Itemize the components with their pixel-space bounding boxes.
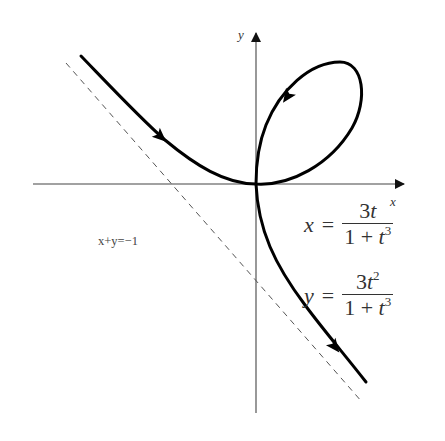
exp: 3 — [385, 294, 392, 309]
exp: 2 — [373, 268, 380, 283]
equation-y: y = 3t2 1 + t3 — [304, 270, 393, 321]
equation-x-denominator: 1 + t3 — [342, 223, 393, 250]
equation-x: x = 3t 1 + t3 — [304, 199, 393, 250]
const: 1 + — [344, 224, 378, 249]
curve-loop — [256, 62, 362, 184]
coef: 3 — [356, 269, 367, 294]
asymptote-label: x+y=−1 — [98, 234, 138, 249]
const: 1 + — [344, 295, 378, 320]
equation-x-equals: = — [322, 212, 334, 238]
equation-y-denominator: 1 + t3 — [342, 294, 393, 321]
curve-branch-upper-left — [81, 56, 256, 184]
equation-x-numerator: 3t — [355, 199, 380, 223]
equation-x-lhs: x — [304, 212, 314, 238]
var: t — [370, 198, 376, 223]
equation-y-numerator: 3t2 — [352, 270, 384, 294]
equation-y-lhs: y — [304, 283, 314, 309]
coef: 3 — [359, 198, 370, 223]
y-axis-label: y — [238, 27, 244, 43]
equation-y-fraction: 3t2 1 + t3 — [342, 270, 393, 321]
equation-x-fraction: 3t 1 + t3 — [342, 199, 393, 250]
equation-y-equals: = — [322, 283, 334, 309]
exp: 3 — [385, 223, 392, 238]
